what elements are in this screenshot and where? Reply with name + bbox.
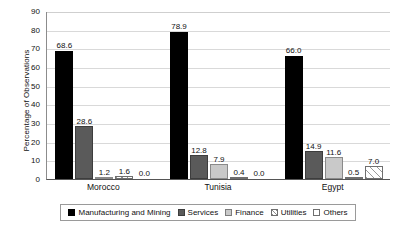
x-category-label: Egypt [275,182,390,192]
bar-utilities: 0.4 [230,177,248,179]
bar-value-label: 66.0 [286,47,302,55]
legend-item-utilities[interactable]: Utilities [271,209,307,217]
bar-manufacturing-and-mining: 78.9 [170,32,188,179]
bar-cell: 1.2 [95,12,113,179]
x-category-label: Morocco [46,182,161,192]
bar-finance: 1.2 [95,177,113,179]
bar-value-label: 0.4 [233,169,244,177]
y-tick-label: 0 [6,176,40,184]
chart-legend: Manufacturing and MiningServicesFinanceU… [60,204,356,221]
bar-cell: 7.9 [210,12,228,179]
legend-item-services[interactable]: Services [178,209,219,217]
bar-value-label: 68.6 [57,42,73,50]
legend-swatch-icon [68,209,75,216]
bar-cell: 0.5 [345,12,363,179]
bar-group-bars: 78.912.87.90.40.0 [170,12,268,179]
y-axis-tick-labels: 0102030405060708090 [0,12,44,180]
bar-value-label: 0.0 [253,170,264,178]
bar-utilities: 1.6 [115,176,133,179]
bar-services: 14.9 [305,151,323,179]
bar-group: 66.014.911.60.57.0 [285,12,383,179]
bar-group-bars: 66.014.911.60.57.0 [285,12,383,179]
legend-item-manufacturing-and-mining[interactable]: Manufacturing and Mining [68,209,170,217]
plot-area: 68.628.61.21.60.078.912.87.90.40.066.014… [46,12,390,180]
bar-groups: 68.628.61.21.60.078.912.87.90.40.066.014… [47,12,390,179]
bar-finance: 7.9 [210,164,228,179]
bar-others: 7.0 [365,166,383,179]
bar-value-label: 7.0 [368,158,379,166]
bar-cell: 11.6 [325,12,343,179]
bar-services: 12.8 [190,155,208,179]
bar-value-label: 11.6 [326,149,341,157]
bar-cell: 7.0 [365,12,383,179]
bar-value-label: 78.9 [171,23,187,31]
y-tick-label: 80 [6,27,40,35]
bar-value-label: 1.6 [119,168,130,176]
bar-cell: 68.6 [55,12,73,179]
legend-item-label: Manufacturing and Mining [78,209,170,217]
bar-cell: 1.6 [115,12,133,179]
x-axis-category-labels: MoroccoTunisiaEgypt [46,182,390,196]
y-tick-label: 30 [6,120,40,128]
bar-utilities: 0.5 [345,177,363,179]
bar-cell: 0.4 [230,12,248,179]
bar-cell: 0.0 [250,12,268,179]
y-tick-label: 70 [6,45,40,53]
bar-chart: Percentage of Observations 0102030405060… [0,0,414,231]
bar-cell: 28.6 [75,12,93,179]
legend-item-others[interactable]: Others [313,209,347,217]
legend-item-label: Services [188,209,219,217]
bar-services: 28.6 [75,126,93,179]
y-tick-label: 40 [6,101,40,109]
bar-cell: 66.0 [285,12,303,179]
bar-value-label: 7.9 [213,156,224,164]
bar-group-bars: 68.628.61.21.60.0 [55,12,153,179]
legend-item-finance[interactable]: Finance [225,209,263,217]
bar-cell: 14.9 [305,12,323,179]
bar-value-label: 0.5 [348,169,359,177]
legend-swatch-icon [225,209,232,216]
bar-cell: 0.0 [135,12,153,179]
bar-value-label: 1.2 [99,169,110,177]
legend-item-label: Utilities [281,209,307,217]
bar-group: 68.628.61.21.60.0 [55,12,153,179]
legend-swatch-icon [271,209,278,216]
x-category-label: Tunisia [161,182,276,192]
y-tick-label: 60 [6,64,40,72]
legend-swatch-icon [178,209,185,216]
y-tick-label: 20 [6,139,40,147]
bar-finance: 11.6 [325,157,343,179]
y-tick-label: 10 [6,157,40,165]
bar-cell: 78.9 [170,12,188,179]
bar-value-label: 12.8 [191,147,207,155]
bar-cell: 12.8 [190,12,208,179]
bar-value-label: 0.0 [139,170,150,178]
bar-value-label: 28.6 [77,118,93,126]
bar-value-label: 14.9 [306,143,322,151]
legend-item-label: Finance [235,209,263,217]
bar-group: 78.912.87.90.40.0 [170,12,268,179]
bar-manufacturing-and-mining: 68.6 [55,51,73,179]
legend-swatch-icon [313,209,320,216]
bar-manufacturing-and-mining: 66.0 [285,56,303,179]
y-tick-label: 90 [6,8,40,16]
y-tick-label: 50 [6,83,40,91]
legend-item-label: Others [323,209,347,217]
